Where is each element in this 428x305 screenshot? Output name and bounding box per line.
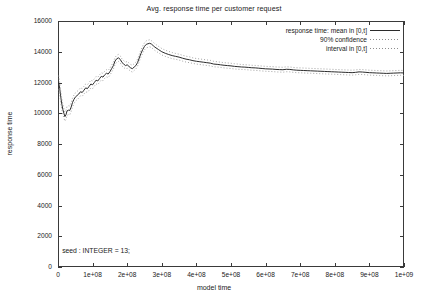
x-axis-title: model time xyxy=(0,284,428,291)
y-tick-label: 0 xyxy=(6,264,52,270)
y-axis-title: response time xyxy=(6,94,13,174)
y-tick-label: 14000 xyxy=(6,49,52,55)
mean-line xyxy=(59,43,404,116)
chart-title: Avg. response time per customer request xyxy=(0,4,428,13)
x-tick-label: 1e+09 xyxy=(382,271,426,278)
y-tick-label: 2000 xyxy=(6,233,52,239)
legend-key-solid xyxy=(370,27,400,35)
plot-annotation: seed : INTEGER = 13; xyxy=(62,247,130,254)
y-tick-mark xyxy=(58,267,62,268)
legend-label: 90% confidence xyxy=(320,36,370,43)
chart-canvas: Avg. response time per customer request … xyxy=(0,0,428,305)
chart-legend: response time: mean in [0,t] 90% confide… xyxy=(248,26,400,53)
y-tick-label: 16000 xyxy=(6,18,52,24)
legend-label: response time: mean in [0,t] xyxy=(286,27,370,34)
y-tick-label: 4000 xyxy=(6,203,52,209)
legend-label: interval in [0,t] xyxy=(326,45,370,52)
x-tick-mark xyxy=(404,263,405,267)
legend-item: response time: mean in [0,t] xyxy=(248,26,400,35)
legend-item: 90% confidence xyxy=(248,35,400,44)
y-tick-label: 12000 xyxy=(6,80,52,86)
legend-item: interval in [0,t] xyxy=(248,44,400,53)
y-tick-label: 10000 xyxy=(6,110,52,116)
legend-key-dotted xyxy=(370,36,400,44)
y-tick-mark xyxy=(400,267,404,268)
legend-key-dotted xyxy=(370,45,400,53)
y-tick-label: 8000 xyxy=(6,141,52,147)
x-tick-mark xyxy=(404,21,405,25)
y-tick-label: 6000 xyxy=(6,172,52,178)
confidence-bound-line xyxy=(59,47,404,121)
data-curves xyxy=(58,21,404,267)
